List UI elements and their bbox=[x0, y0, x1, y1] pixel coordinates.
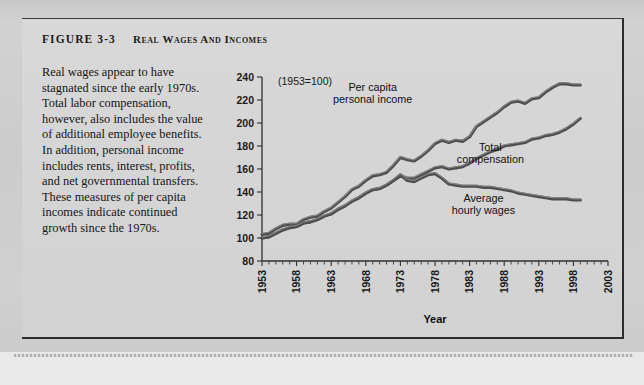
x-tick-label: 1998 bbox=[567, 270, 579, 294]
line-chart: 8010012014016018020022024019531958196319… bbox=[218, 55, 614, 331]
figure-caption: Real wages appear to have stagnated sinc… bbox=[42, 65, 210, 237]
series-3 bbox=[262, 173, 580, 239]
y-tick-label: 80 bbox=[242, 255, 254, 267]
y-tick-label: 120 bbox=[236, 209, 254, 221]
x-axis-title: Year bbox=[423, 313, 447, 325]
series-label-1: Per capitapersonal income bbox=[333, 81, 412, 105]
chart-area: 8010012014016018020022024019531958196319… bbox=[218, 55, 614, 331]
index-base-note: (1953=100) bbox=[278, 75, 332, 87]
x-tick-label: 1973 bbox=[394, 270, 406, 294]
series-label-3: Averagehourly wages bbox=[452, 192, 516, 216]
figure-box: Figure 3-3 Real Wages and Incomes Real w… bbox=[22, 18, 624, 339]
y-tick-label: 100 bbox=[236, 232, 254, 244]
x-tick-label: 1988 bbox=[498, 270, 510, 294]
x-tick-label: 1963 bbox=[325, 270, 337, 294]
y-tick-label: 200 bbox=[236, 117, 254, 129]
page-bottom-rule bbox=[14, 354, 634, 357]
y-tick-label: 220 bbox=[236, 94, 254, 106]
series-label-line2: personal income bbox=[333, 93, 412, 105]
x-tick-label: 2003 bbox=[602, 270, 614, 294]
series-1 bbox=[262, 83, 580, 235]
series-label-line1: Average bbox=[463, 192, 503, 204]
y-tick-label: 160 bbox=[236, 163, 254, 175]
x-tick-label: 1993 bbox=[533, 270, 545, 294]
figure-title: Real Wages and Incomes bbox=[133, 33, 268, 45]
series-label-line2: compensation bbox=[457, 153, 524, 165]
x-tick-label: 1953 bbox=[256, 270, 268, 294]
series-line-highlight bbox=[262, 173, 580, 237]
series-line bbox=[262, 84, 580, 235]
x-tick-label: 1978 bbox=[429, 270, 441, 294]
x-tick-label: 1983 bbox=[463, 270, 475, 294]
series-label-line2: hourly wages bbox=[452, 204, 516, 216]
y-tick-label: 140 bbox=[236, 186, 254, 198]
series-label-line1: Per capita bbox=[348, 81, 397, 93]
figure-number: Figure 3-3 bbox=[42, 33, 116, 45]
x-tick-label: 1958 bbox=[290, 270, 302, 294]
series-line bbox=[262, 174, 580, 238]
y-tick-label: 180 bbox=[236, 140, 254, 152]
series-label-line1: Total bbox=[479, 141, 502, 153]
y-tick-label: 240 bbox=[236, 71, 254, 83]
x-tick-label: 1968 bbox=[360, 270, 372, 294]
figure-header: Figure 3-3 Real Wages and Incomes bbox=[42, 33, 267, 45]
